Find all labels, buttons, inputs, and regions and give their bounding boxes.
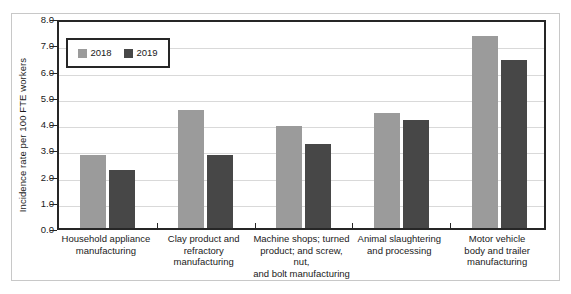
category-separator-tick	[157, 223, 158, 228]
y-axis-tick-label: 5.0	[16, 93, 54, 105]
legend-label-2018: 2018	[90, 48, 111, 58]
bar-2018-group-1	[80, 155, 106, 229]
category-separator-tick	[255, 223, 256, 228]
x-label-line: Clay product and	[155, 233, 253, 245]
y-axis-tick-label: 4.0	[16, 119, 54, 131]
category-separator-tick	[352, 223, 353, 228]
bar-2019-group-2	[207, 155, 233, 229]
chart-legend: 2018 2019	[66, 38, 170, 68]
y-axis-tick-mark	[50, 204, 57, 205]
y-axis-tick-mark	[50, 20, 57, 21]
legend-swatch-icon-2018	[78, 49, 87, 58]
y-axis-tick-label: 6.0	[16, 67, 54, 79]
y-axis-title: Incidence rate per 100 FTE workers	[16, 20, 30, 250]
legend-label-2019: 2019	[136, 48, 157, 58]
x-axis-category-label-5: Motor vehiclebody and trailermanufacturi…	[448, 233, 546, 268]
bar-2018-group-2	[178, 110, 204, 228]
y-axis-tick-mark	[50, 46, 57, 47]
legend-item-2018: 2018	[78, 48, 111, 58]
x-axis-category-label-3: Machine shops; turnedproduct; and screw,…	[253, 233, 351, 279]
bar-2019-group-1	[109, 170, 135, 228]
chart-figure: Incidence rate per 100 FTE workers 0.01.…	[0, 0, 571, 294]
legend-swatch-icon-2019	[124, 49, 133, 58]
y-axis-tick-mark	[50, 99, 57, 100]
y-axis-tick-label: 7.0	[16, 40, 54, 52]
x-label-line: refractory	[155, 245, 253, 257]
y-axis-tick-label: 2.0	[16, 172, 54, 184]
y-axis-tick-mark	[50, 73, 57, 74]
y-axis-tick-mark	[50, 178, 57, 179]
x-label-line: manufacturing	[57, 245, 155, 257]
x-axis-category-labels: Household appliancemanufacturingClay pro…	[57, 233, 546, 281]
legend-item-2019: 2019	[124, 48, 157, 58]
y-axis-tick-mark	[50, 230, 57, 231]
x-label-line: manufacturing	[448, 256, 546, 268]
x-label-line: manufacturing	[155, 256, 253, 268]
x-label-line: body and trailer	[448, 245, 546, 257]
x-label-line: Animal slaughtering	[350, 233, 448, 245]
x-axis-category-label-2: Clay product andrefractorymanufacturing	[155, 233, 253, 268]
y-axis-tick-label: 3.0	[16, 145, 54, 157]
bar-2018-group-4	[374, 113, 400, 229]
y-axis-tick-label: 1.0	[16, 198, 54, 210]
y-axis-tick-label: 0.0	[16, 224, 54, 236]
y-axis-tick-mark	[50, 125, 57, 126]
bar-2019-group-4	[403, 120, 429, 228]
x-label-line: Household appliance	[57, 233, 155, 245]
bar-2018-group-5	[472, 36, 498, 228]
x-axis-category-label-4: Animal slaughteringand processing	[350, 233, 448, 256]
y-axis-tick-label: 8.0	[16, 14, 54, 26]
x-label-line: and bolt manufacturing	[253, 268, 351, 280]
x-label-line: Motor vehicle	[448, 233, 546, 245]
x-label-line: product; and screw, nut,	[253, 245, 351, 268]
bar-2019-group-5	[501, 60, 527, 228]
bar-2018-group-3	[276, 126, 302, 228]
x-label-line: and processing	[350, 245, 448, 257]
y-axis-tick-mark	[50, 151, 57, 152]
x-axis-category-label-1: Household appliancemanufacturing	[57, 233, 155, 256]
category-separator-tick	[450, 223, 451, 228]
x-label-line: Machine shops; turned	[253, 233, 351, 245]
bar-2019-group-3	[305, 144, 331, 228]
